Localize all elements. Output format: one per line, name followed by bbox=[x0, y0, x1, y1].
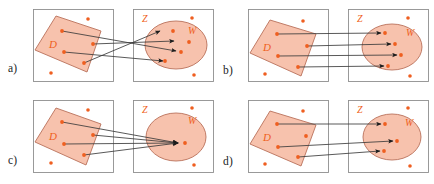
panel-b: D Z W b) bbox=[217, 0, 434, 92]
image-point bbox=[399, 53, 403, 57]
image-point bbox=[395, 139, 399, 143]
domain-label: D bbox=[262, 131, 271, 143]
image-point bbox=[383, 122, 387, 126]
image-point bbox=[187, 40, 191, 44]
scatter-point bbox=[406, 106, 410, 110]
image-point bbox=[386, 64, 390, 68]
scatter-point bbox=[192, 73, 196, 77]
scatter-point bbox=[408, 74, 412, 78]
scatter-point bbox=[263, 162, 267, 166]
image-point bbox=[382, 149, 386, 153]
latent-label: Z bbox=[142, 13, 148, 24]
latent-label: Z bbox=[142, 104, 148, 115]
scatter-point bbox=[190, 16, 194, 20]
scatter-point bbox=[301, 19, 305, 23]
image-point bbox=[393, 42, 397, 46]
domain-point-unmapped bbox=[304, 134, 308, 138]
scatter-point bbox=[408, 164, 412, 168]
domain-point bbox=[305, 44, 309, 48]
domain-point bbox=[91, 133, 95, 137]
domain-point bbox=[62, 142, 66, 146]
mapping-arrow bbox=[298, 151, 380, 157]
domain-point bbox=[275, 122, 279, 126]
scatter-point bbox=[49, 161, 53, 165]
domain-point bbox=[276, 145, 280, 149]
image-point bbox=[179, 50, 183, 54]
panel-caption-b: b) bbox=[223, 64, 233, 76]
panel-caption-a: a) bbox=[8, 62, 17, 74]
scatter-point bbox=[49, 71, 53, 75]
scatter-point bbox=[86, 108, 90, 112]
domain-point bbox=[82, 61, 86, 65]
domain-region-polygon bbox=[250, 111, 316, 166]
domain-point bbox=[82, 153, 86, 157]
scatter-point bbox=[301, 109, 305, 113]
scatter-point bbox=[190, 106, 194, 110]
latent-label: Z bbox=[357, 13, 363, 24]
panel-d: D Z W d) bbox=[217, 92, 434, 184]
mapping-diagram-figure: D Z W a) bbox=[0, 0, 434, 184]
domain-region-polygon bbox=[35, 108, 101, 165]
mapping-arrow bbox=[298, 66, 384, 67]
scatter-point bbox=[406, 16, 410, 20]
domain-point bbox=[91, 42, 95, 46]
scatter-point bbox=[86, 17, 90, 21]
scatter-point bbox=[263, 72, 267, 76]
domain-point bbox=[60, 120, 64, 124]
image-point bbox=[163, 59, 167, 63]
domain-label: D bbox=[48, 38, 57, 50]
latent-label: Z bbox=[357, 104, 363, 115]
image-point bbox=[383, 31, 387, 35]
image-point-collapsed bbox=[183, 141, 187, 145]
domain-label: D bbox=[262, 41, 271, 53]
latent-subset-ellipse bbox=[146, 113, 206, 161]
panel-c: D Z W c) bbox=[0, 92, 217, 184]
panel-caption-d: d) bbox=[223, 155, 233, 167]
domain-point bbox=[62, 50, 66, 54]
domain-point bbox=[296, 65, 300, 69]
domain-point bbox=[275, 32, 279, 36]
domain-region-polygon bbox=[250, 20, 316, 76]
domain-point bbox=[296, 155, 300, 159]
panel-a: D Z W a) bbox=[0, 0, 217, 92]
scatter-point bbox=[192, 163, 196, 167]
domain-label: D bbox=[48, 130, 57, 142]
image-point bbox=[171, 29, 175, 33]
domain-point bbox=[60, 29, 64, 33]
domain-region-polygon bbox=[35, 16, 101, 72]
latent-subset-ellipse bbox=[145, 21, 207, 69]
panel-caption-c: c) bbox=[8, 154, 17, 166]
domain-point bbox=[276, 54, 280, 58]
